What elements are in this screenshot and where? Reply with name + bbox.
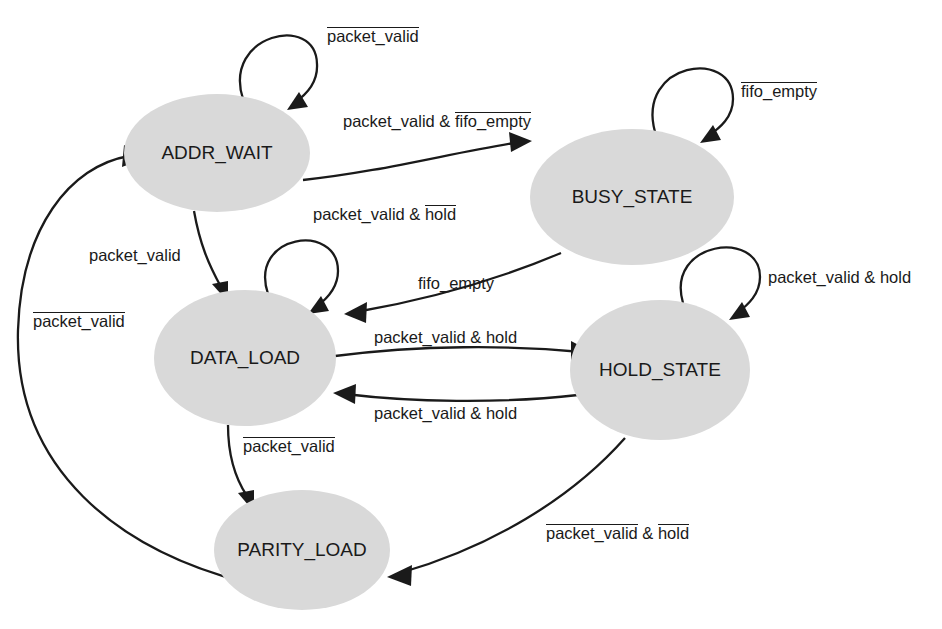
state-label-data-load: DATA_LOAD	[190, 347, 300, 369]
edge-label-hold-to-data-load: packet_valid & hold	[374, 404, 517, 423]
state-node-addr-wait[interactable]: ADDR_WAIT	[124, 94, 310, 212]
state-label-busy-state: BUSY_STATE	[572, 186, 693, 208]
state-node-data-load[interactable]: DATA_LOAD	[154, 290, 336, 426]
fsm-diagram-canvas: ADDR_WAIT BUSY_STATE DATA_LOAD HOLD_STAT…	[0, 0, 942, 629]
state-label-hold-state: HOLD_STATE	[599, 359, 721, 381]
transition-addr-wait-to-busy	[303, 132, 532, 180]
edge-label-hold-to-parity: packet_valid & hold	[546, 524, 689, 543]
edge-label-addr-wait-to-data-load: packet_valid	[89, 246, 181, 265]
edge-label-busy-to-data-load: fifo_empty	[418, 274, 494, 293]
transition-hold-to-parity	[387, 438, 625, 586]
edge-label-data-load-to-hold: packet_valid & hold	[374, 328, 517, 347]
state-label-addr-wait: ADDR_WAIT	[161, 142, 273, 164]
state-node-busy-state[interactable]: BUSY_STATE	[530, 129, 734, 265]
edge-label-addr-wait-to-busy: packet_valid & fifo_empty	[343, 112, 531, 131]
state-node-parity-load[interactable]: PARITY_LOAD	[214, 490, 390, 610]
edge-label-data-load-to-parity: packet_valid	[243, 437, 335, 456]
edge-label-hold-self: packet_valid & hold	[768, 268, 911, 287]
edge-label-parity-to-addr-wait: packet_valid	[33, 312, 125, 331]
edge-label-data-load-self: packet_valid & hold	[313, 205, 456, 224]
state-node-hold-state[interactable]: HOLD_STATE	[570, 300, 750, 440]
transition-addr-wait-to-data-load	[194, 211, 228, 302]
edge-label-busy-self: fifo_empty	[741, 82, 817, 101]
transition-hold-to-data-load	[333, 384, 578, 404]
transition-busy-self	[653, 68, 733, 143]
state-label-parity-load: PARITY_LOAD	[237, 539, 367, 561]
edge-label-addr-wait-self: packet_valid	[327, 27, 419, 46]
